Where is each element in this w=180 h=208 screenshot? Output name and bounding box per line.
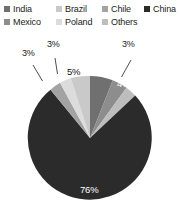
legend-label-mexico: Mexico — [13, 17, 41, 27]
legend-swatch-others — [102, 19, 108, 25]
legend-label-chile: Chile — [111, 4, 131, 14]
leader-line-chile — [122, 60, 132, 77]
legend-item-mexico: Mexico — [4, 16, 56, 28]
leader-line-others — [33, 65, 43, 81]
legend-label-others: Others — [111, 17, 137, 27]
chart-legend: India Brazil Chile China Mexico Poland O… — [4, 3, 178, 29]
legend-label-brazil: Brazil — [65, 4, 87, 14]
legend-label-china: China — [153, 4, 176, 14]
data-label-others: 3% — [22, 49, 35, 58]
legend-item-china: China — [144, 3, 178, 15]
data-label-china: 76% — [80, 185, 98, 194]
legend-label-poland: Poland — [65, 17, 92, 27]
data-label-india: 6% — [92, 67, 105, 76]
pie-chart-figure: India Brazil Chile China Mexico Poland O… — [0, 0, 180, 208]
legend-swatch-mexico — [4, 19, 10, 25]
legend-item-brazil: Brazil — [56, 3, 102, 15]
legend-swatch-chile — [102, 6, 108, 12]
legend-item-chile: Chile — [102, 3, 144, 15]
legend-swatch-brazil — [56, 6, 62, 12]
data-label-brazil: 5% — [67, 67, 80, 76]
legend-swatch-china — [144, 6, 150, 12]
legend-swatch-india — [4, 6, 10, 12]
pie-slices — [28, 76, 152, 200]
legend-swatch-poland — [56, 19, 62, 25]
leader-line-poland — [55, 58, 58, 74]
legend-item-poland: Poland — [56, 16, 102, 28]
legend-item-others: Others — [102, 16, 144, 28]
data-label-mexico: 4% — [117, 79, 130, 88]
data-label-poland: 3% — [47, 40, 60, 49]
legend-item-india: India — [4, 3, 56, 15]
legend-label-india: India — [13, 4, 32, 14]
data-label-chile: 3% — [122, 40, 135, 49]
